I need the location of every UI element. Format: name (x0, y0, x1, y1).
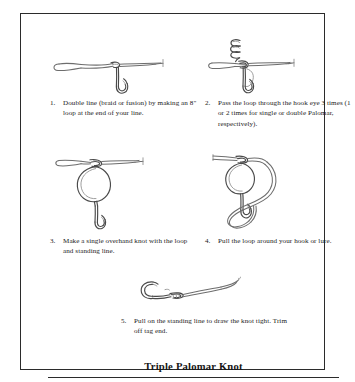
title-underline (48, 377, 339, 378)
step-3-illustration (55, 150, 197, 232)
step-1-text: 1. Double line (braid or fusion) by maki… (50, 98, 198, 119)
step-4-illustration (207, 148, 345, 232)
step-1-number: 1. (50, 98, 63, 108)
step-3-body: Make a single overhand knot with the loo… (63, 236, 198, 257)
step-5-body: Pull on the standing line to draw the kn… (134, 316, 291, 337)
step-4-number: 4. (205, 236, 218, 246)
step-2-illustration (208, 30, 344, 96)
diagram-frame: 1. Double line (braid or fusion) by maki… (20, 13, 325, 370)
step-1-body: Double line (braid or fusion) by making … (63, 98, 198, 119)
step-4-body: Pull the loop around your hook or lure. (218, 236, 355, 246)
knot-title: Triple Palomar Knot (42, 361, 345, 372)
step-2-text: 2. Pass the loop through the hook eye 3 … (205, 98, 355, 129)
step-4-text: 4. Pull the loop around your hook or lur… (205, 236, 355, 246)
step-2-body: Pass the loop through the hook eye 3 tim… (218, 98, 355, 129)
step-1-illustration (51, 38, 197, 96)
step-3-number: 3. (50, 236, 63, 246)
step-2-number: 2. (205, 98, 218, 108)
step-5-number: 5. (121, 316, 134, 326)
step-5-text: 5. Pull on the standing line to draw the… (121, 316, 291, 337)
step-3-text: 3. Make a single overhand knot with the … (50, 236, 198, 257)
step-5-illustration (137, 276, 249, 310)
